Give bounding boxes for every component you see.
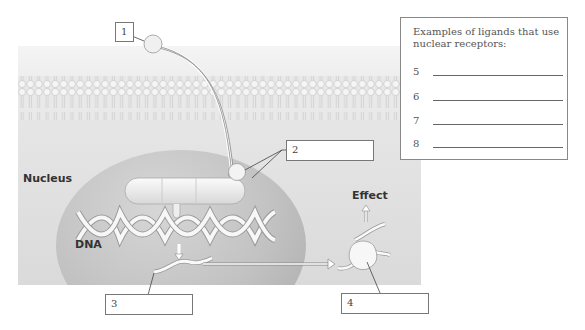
dna-label: DNA (75, 238, 102, 251)
ligand-item-number: 5 (413, 66, 419, 77)
nucleus-label: Nucleus (23, 172, 72, 185)
ligand-answer-line-7[interactable] (433, 124, 563, 125)
effect-label: Effect (352, 189, 388, 202)
ligand-item-number: 8 (413, 138, 419, 149)
ligand-answer-line-6[interactable] (433, 100, 563, 101)
ligand-box-title: Examples of ligands that use nuclear rec… (413, 26, 563, 50)
callout-4[interactable]: 4 (341, 293, 429, 314)
bound-ligand (229, 164, 246, 181)
ligand-examples-box: Examples of ligands that use nuclear rec… (400, 17, 568, 160)
ligand-item-number: 7 (413, 115, 419, 126)
callout-3[interactable]: 3 (105, 294, 193, 315)
ligand-circle (144, 35, 162, 53)
callout-2[interactable]: 2 (286, 140, 374, 161)
ligand-answer-line-5[interactable] (433, 75, 563, 76)
ribosome (349, 241, 377, 270)
ligand-item-number: 6 (413, 91, 419, 102)
callout-1[interactable]: 1 (115, 22, 134, 42)
ligand-answer-line-8[interactable] (433, 147, 563, 148)
receptor (125, 178, 245, 204)
